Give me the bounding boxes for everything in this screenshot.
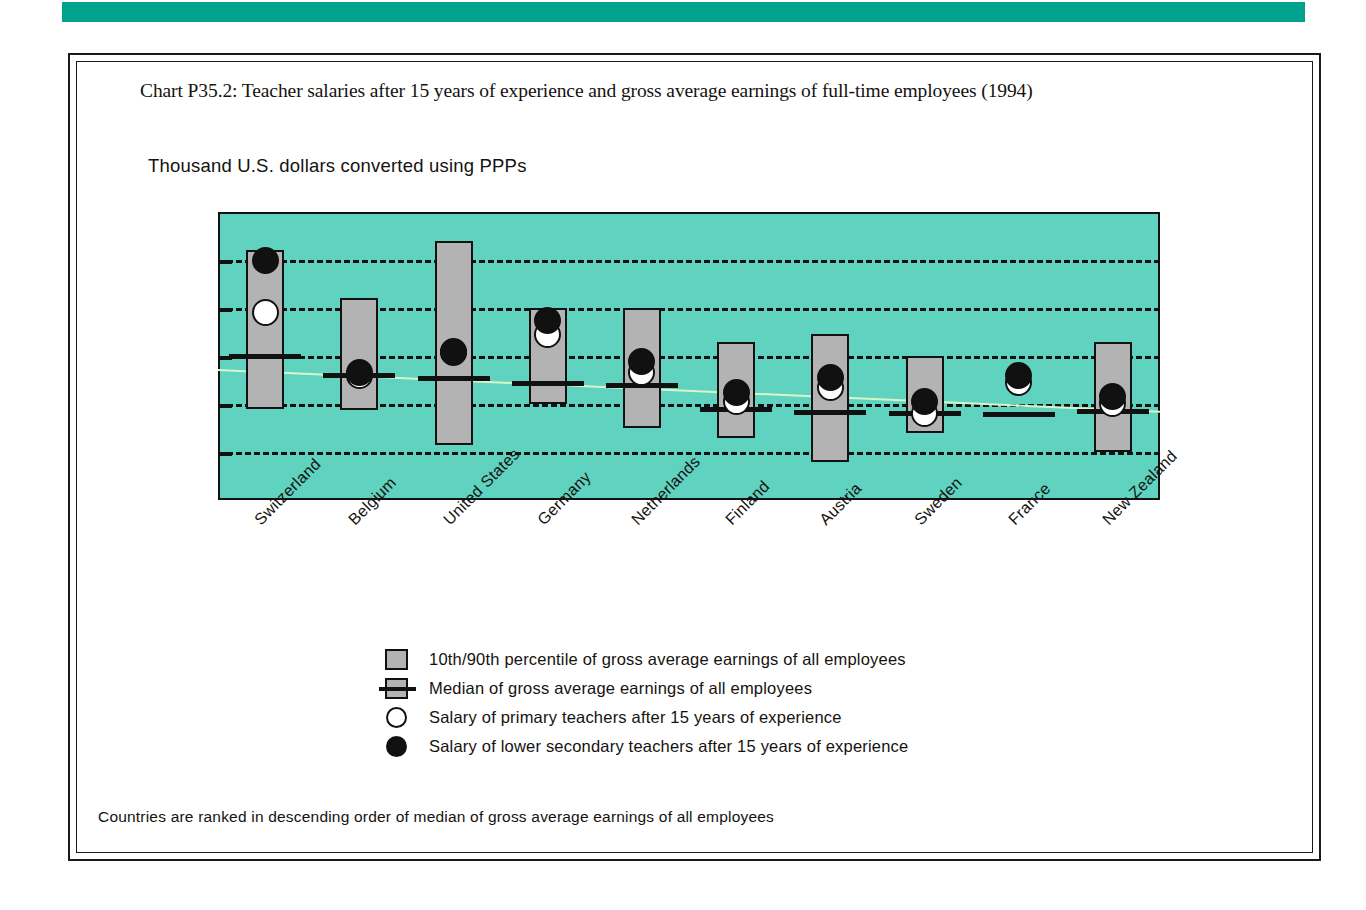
lower-secondary-teacher-salary-dot (817, 364, 844, 391)
percentile-bar (340, 298, 378, 410)
lower-secondary-teacher-salary-dot (1005, 362, 1032, 389)
percentile-bar (246, 250, 284, 408)
y-tick-mark (218, 404, 232, 408)
primary-teacher-salary-dot (252, 299, 279, 326)
open-circle-icon (383, 704, 413, 731)
lower-secondary-teacher-salary-dot (440, 339, 467, 366)
median-marker (983, 412, 1055, 417)
chart-subtitle: Thousand U.S. dollars converted using PP… (148, 155, 527, 177)
gray-box-icon (383, 646, 413, 673)
y-tick-mark (218, 308, 232, 312)
lower-secondary-teacher-salary-dot (534, 307, 561, 334)
top-banner (62, 2, 1305, 22)
legend-item-percentile: 10th/90th percentile of gross average ea… (383, 645, 908, 674)
lower-secondary-teacher-salary-dot (723, 379, 750, 406)
lower-secondary-teacher-salary-dot (911, 388, 938, 415)
legend-label: Salary of primary teachers after 15 year… (429, 708, 842, 727)
legend-label: Salary of lower secondary teachers after… (429, 737, 908, 756)
filled-circle-icon (383, 733, 413, 760)
y-tick-mark (218, 452, 232, 456)
legend-item-primary: Salary of primary teachers after 15 year… (383, 703, 908, 732)
chart-legend: 10th/90th percentile of gross average ea… (383, 645, 908, 761)
median-marker (229, 354, 301, 359)
median-marker (418, 376, 490, 381)
y-tick-mark (218, 260, 232, 264)
legend-label: 10th/90th percentile of gross average ea… (429, 650, 906, 669)
gridline (218, 260, 1160, 263)
median-marker (512, 381, 584, 386)
median-marker (794, 410, 866, 415)
footnote: Countries are ranked in descending order… (98, 808, 774, 826)
legend-item-secondary: Salary of lower secondary teachers after… (383, 732, 908, 761)
lower-secondary-teacher-salary-dot (346, 359, 373, 386)
lower-secondary-teacher-salary-dot (252, 247, 279, 274)
median-line-icon (383, 675, 413, 702)
legend-item-median: Median of gross average earnings of all … (383, 674, 908, 703)
page-title: Chart P35.2: Teacher salaries after 15 y… (140, 80, 1320, 102)
legend-label: Median of gross average earnings of all … (429, 679, 812, 698)
